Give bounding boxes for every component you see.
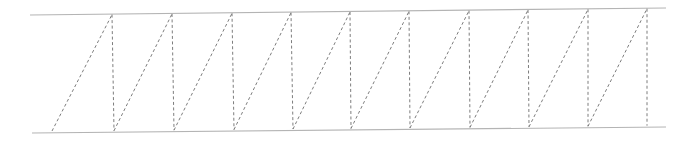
web-members — [52, 9, 647, 131]
diagonal-member — [293, 12, 350, 129]
diagonal-member — [470, 10, 528, 127]
vertical-member — [350, 12, 351, 129]
diagonal-member — [410, 11, 469, 128]
diagonal-member — [588, 9, 647, 127]
diagonal-member — [234, 13, 291, 130]
top-chord — [30, 8, 666, 15]
vertical-member — [172, 14, 174, 130]
vertical-member — [112, 15, 114, 131]
truss-diagram — [0, 0, 694, 143]
diagonal-member — [174, 13, 232, 130]
diagonal-member — [114, 14, 172, 131]
bottom-chord — [32, 127, 666, 133]
vertical-member — [232, 13, 234, 129]
diagonal-member — [52, 15, 112, 131]
diagonal-member — [351, 11, 409, 128]
vertical-member — [409, 11, 410, 128]
diagonal-member — [529, 9, 588, 126]
vertical-member — [469, 11, 470, 128]
vertical-member — [528, 10, 529, 127]
vertical-member — [291, 13, 293, 129]
